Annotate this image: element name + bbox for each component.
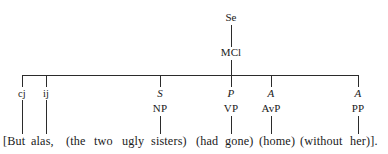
tree-form-label-pp-5: PP <box>352 103 364 114</box>
sentence-word: gone) <box>225 134 254 148</box>
tree-function-label-p-3: P <box>228 88 235 99</box>
sentence-word: [But <box>3 134 25 148</box>
sentence-word: ugly <box>122 134 144 148</box>
tree-function-label-a-4: A <box>268 88 275 99</box>
tree-branch-descender <box>231 75 232 87</box>
tree-edge-se-to-mcl <box>231 25 232 47</box>
sentence-word: two <box>94 134 113 148</box>
tree-function-label-a-5: A <box>355 88 362 99</box>
tree-leaf-stem <box>160 116 161 134</box>
tree-form-label-vp-3: VP <box>224 103 238 114</box>
tree-leaf-stem <box>358 116 359 134</box>
tree-branch-descender <box>46 75 47 87</box>
sentence-word: (home) <box>259 134 295 148</box>
tree-function-label-ij-1: ij <box>43 88 49 99</box>
sentence-word: (had <box>196 134 218 148</box>
tree-leaf-stem <box>22 100 23 134</box>
sentence-word: her)]. <box>350 134 378 148</box>
sentence-word: (the <box>66 134 86 148</box>
sentence-word: alas, <box>31 134 54 148</box>
tree-branch-descender <box>160 75 161 87</box>
tree-function-label-s-2: S <box>157 88 163 99</box>
tree-form-label-avp-4: AvP <box>261 103 280 114</box>
tree-form-label-np-2: NP <box>153 103 167 114</box>
tree-leaf-stem <box>271 116 272 134</box>
tree-branch-descender <box>22 75 23 87</box>
sentence-word: sisters) <box>151 134 187 148</box>
syntax-tree-diagram: Se MCl cjijSNPPVPAAvPAPP [Butalas,(thetw… <box>0 0 388 154</box>
tree-node-se: Se <box>225 12 236 23</box>
tree-branch-descender <box>358 75 359 87</box>
tree-node-mcl: MCl <box>221 47 241 58</box>
tree-leaf-stem <box>46 100 47 134</box>
sentence-word: (without <box>300 134 343 148</box>
tree-horizontal-bar <box>22 75 359 76</box>
tree-branch-descender <box>271 75 272 87</box>
tree-function-label-cj-0: cj <box>18 88 26 99</box>
tree-edge-mcl-to-bar <box>231 60 232 75</box>
tree-leaf-stem <box>231 116 232 134</box>
